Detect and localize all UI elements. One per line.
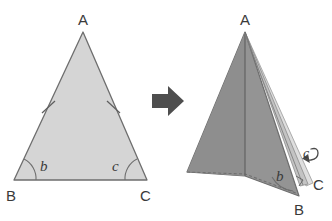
left-vertex-label-c: C <box>140 187 151 204</box>
transformation-arrow-group <box>152 86 184 116</box>
triangle-abc-shape <box>14 32 147 180</box>
right-angle-label-b: b <box>276 168 284 184</box>
right-angle-label-c: c <box>303 146 310 161</box>
fold-diagram-svg: A B C b c <box>0 0 332 221</box>
right-arrow-icon <box>152 86 184 116</box>
left-angle-label-b: b <box>40 158 48 174</box>
left-vertex-label-b: B <box>6 187 16 204</box>
figure-container: A B C b c <box>0 0 332 221</box>
left-unfolded-triangle-group: A B C b c <box>6 11 151 204</box>
right-vertex-label-c: C <box>313 176 324 193</box>
right-vertex-label-a: A <box>240 11 250 28</box>
right-folded-triangle-group: A B C b c <box>187 11 324 218</box>
folded-back-half-shape <box>187 32 245 176</box>
right-vertex-label-b: B <box>294 201 304 218</box>
left-vertex-label-a: A <box>78 11 88 28</box>
left-angle-label-c: c <box>112 158 119 174</box>
